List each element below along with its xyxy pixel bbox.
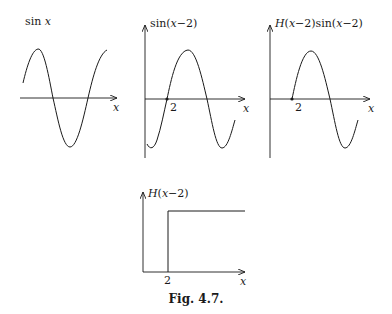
panel-title-product: H(x−2)sin(x−2) — [274, 17, 363, 30]
panel-title-sin-shifted: sin(x−2) — [150, 17, 197, 30]
tick-label-2: 2 — [164, 274, 171, 287]
step-function — [168, 211, 245, 272]
panel-product: H(x−2)sin(x−2) x 2 — [270, 17, 375, 158]
x-axis-label: x — [240, 275, 247, 288]
x-axis-label: x — [113, 101, 120, 114]
panel-title-sin-x: sin x — [25, 15, 52, 28]
figure-caption: Fig. 4.7. — [169, 292, 224, 306]
x-axis-label: x — [368, 102, 375, 115]
x-axis-label: x — [243, 102, 250, 115]
panel-title-heaviside: H(x−2) — [147, 187, 189, 200]
tick-label-2: 2 — [170, 101, 177, 114]
panel-sin-shifted: sin(x−2) x 2 — [145, 17, 250, 158]
figure-canvas: sin x x sin(x−2) x 2 H(x−2)sin(x−2) x 2 … — [0, 0, 392, 314]
panel-sin-x: sin x x — [20, 15, 120, 147]
product-curve — [292, 51, 358, 148]
tick-label-2: 2 — [295, 101, 302, 114]
panel-heaviside: H(x−2) x 2 — [143, 187, 247, 288]
